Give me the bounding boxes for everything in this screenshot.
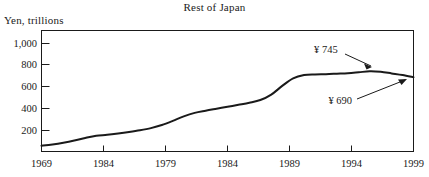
y-tick-label: 200 [21, 125, 37, 136]
y-tick-labels: 1,000 800 600 400 200 [13, 38, 37, 136]
x-tick-label: 1989 [279, 158, 300, 169]
annotation-745: ¥ 745 [314, 44, 372, 70]
plot-area: 1,000 800 600 400 200 1969 1984 1979 198… [0, 0, 429, 177]
y-tick-label: 600 [21, 81, 37, 92]
data-line-rest-of-japan [42, 71, 414, 146]
annotation-690-label: ¥ 690 [328, 95, 352, 106]
x-tick-labels: 1969 1984 1979 1984 1989 1994 1999 [31, 158, 424, 169]
x-tick-label: 1994 [341, 158, 363, 169]
x-tick-label: 1969 [31, 158, 52, 169]
chart-figure: Rest of Japan Yen, trillions 1,000 800 6… [0, 0, 429, 177]
plot-frame [42, 31, 414, 152]
x-tick-marks [42, 146, 414, 152]
y-tick-marks [42, 44, 50, 131]
annotation-690: ¥ 690 [328, 79, 407, 106]
annotation-745-label: ¥ 745 [314, 44, 338, 55]
y-tick-label: 1,000 [13, 38, 37, 49]
x-tick-label: 1984 [217, 158, 239, 169]
x-tick-label: 1984 [93, 158, 115, 169]
y-tick-label: 800 [21, 59, 37, 70]
y-tick-label: 400 [21, 103, 37, 114]
x-tick-label: 1999 [403, 158, 424, 169]
x-tick-label: 1979 [155, 158, 176, 169]
